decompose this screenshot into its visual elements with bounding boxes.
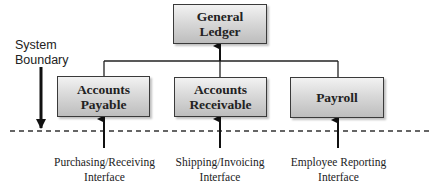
iface2-line2: Interface: [155, 170, 285, 185]
accounts-payable-line1: Accounts: [77, 82, 130, 97]
boundary-line1: System: [15, 38, 69, 53]
accounts-receivable-box: Accounts Receivable: [174, 77, 267, 117]
accounts-payable-line2: Payable: [81, 97, 127, 112]
general-ledger-line2: Ledger: [199, 24, 240, 39]
payroll-label: Payroll: [316, 90, 358, 105]
iface1-line1: Purchasing/Receiving: [37, 155, 172, 170]
diagram-canvas: General Ledger Accounts Payable Accounts…: [0, 0, 442, 193]
iface1-line2: Interface: [37, 170, 172, 185]
accounts-receivable-line2: Receivable: [189, 97, 251, 112]
general-ledger-box: General Ledger: [173, 4, 267, 44]
iface2-line1: Shipping/Invoicing: [155, 155, 285, 170]
iface3-line1: Employee Reporting: [271, 155, 406, 170]
boundary-line2: Boundary: [15, 53, 69, 68]
accounts-payable-box: Accounts Payable: [57, 76, 150, 117]
payroll-box: Payroll: [290, 77, 384, 118]
general-ledger-line1: General: [197, 9, 244, 24]
system-boundary-label: System Boundary: [15, 38, 69, 68]
purchasing-receiving-interface: Purchasing/Receiving Interface: [37, 155, 172, 185]
iface3-line2: Interface: [271, 170, 406, 185]
accounts-receivable-line1: Accounts: [194, 82, 247, 97]
shipping-invoicing-interface: Shipping/Invoicing Interface: [155, 155, 285, 185]
employee-reporting-interface: Employee Reporting Interface: [271, 155, 406, 185]
